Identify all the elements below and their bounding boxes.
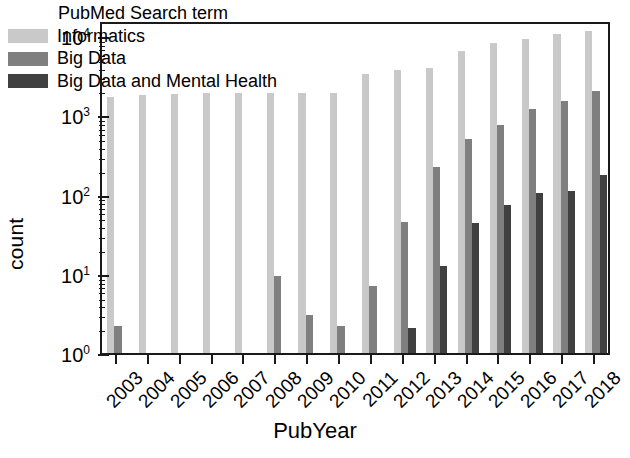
y-tick-minor: [99, 220, 105, 221]
bar: [203, 93, 210, 353]
bar: [585, 31, 592, 353]
bar: [440, 266, 447, 353]
bar: [298, 93, 305, 353]
bar: [408, 328, 415, 353]
bar: [274, 276, 281, 353]
legend-label-big-data: Big Data: [57, 47, 126, 70]
x-tick: [147, 355, 149, 364]
legend-item-1: Big Data: [8, 47, 277, 70]
y-tick-minor: [99, 252, 105, 253]
y-tick-minor: [99, 121, 105, 122]
x-tick: [115, 355, 117, 364]
legend-item-0: Informatics: [8, 25, 277, 48]
x-tick: [179, 355, 181, 364]
bar: [235, 93, 242, 353]
legend: PubMed Search term Informatics Big Data …: [8, 2, 277, 93]
bar: [171, 94, 178, 353]
y-tick-minor: [99, 93, 105, 94]
bar: [139, 95, 146, 353]
bar: [490, 43, 497, 353]
y-tick-minor: [99, 331, 105, 332]
x-tick: [306, 355, 308, 364]
y-tick-minor: [99, 288, 105, 289]
y-tick-minor: [99, 130, 105, 131]
legend-swatch-informatics: [8, 29, 48, 43]
bar: [394, 70, 401, 353]
y-tick-minor: [99, 238, 105, 239]
bar: [267, 93, 274, 353]
bar: [561, 101, 568, 353]
x-tick: [561, 355, 563, 364]
legend-title: PubMed Search term: [58, 2, 277, 25]
bar: [522, 39, 529, 353]
legend-label-big-data-mental-health: Big Data and Mental Health: [57, 70, 277, 93]
y-tick-major: [98, 196, 109, 198]
bar: [306, 315, 313, 353]
bar: [458, 51, 465, 353]
y-tick-label: 101: [61, 264, 90, 288]
x-tick-label: 2018: [580, 367, 625, 412]
bar: [465, 139, 472, 353]
bar: [426, 68, 433, 353]
y-tick-minor: [99, 317, 105, 318]
bar: [330, 93, 337, 353]
bar: [553, 34, 560, 353]
bar: [337, 326, 344, 353]
legend-item-2: Big Data and Mental Health: [8, 70, 277, 93]
bar: [529, 109, 536, 353]
x-tick: [402, 355, 404, 364]
bar: [369, 286, 376, 353]
bar: [600, 175, 607, 353]
y-tick-minor: [99, 159, 105, 160]
bar: [401, 222, 408, 353]
bar: [472, 223, 479, 353]
bar: [504, 205, 511, 353]
bar-chart-figure: count 100101102103104 200320042005200620…: [0, 0, 630, 458]
y-tick-label: 103: [61, 105, 90, 129]
y-tick-minor: [99, 209, 105, 210]
bar: [497, 125, 504, 353]
y-tick-minor: [99, 300, 105, 301]
bar: [568, 191, 575, 353]
legend-swatch-big-data-mental-health: [8, 74, 48, 88]
x-tick: [242, 355, 244, 364]
x-tick: [593, 355, 595, 364]
legend-swatch-big-data: [8, 52, 48, 66]
y-tick-minor: [99, 284, 105, 285]
x-tick: [497, 355, 499, 364]
y-tick-minor: [99, 228, 105, 229]
bar: [433, 167, 440, 353]
legend-label-informatics: Informatics: [57, 25, 145, 48]
y-tick-major: [98, 354, 109, 356]
x-tick: [338, 355, 340, 364]
bar: [362, 74, 369, 353]
y-tick-label: 102: [61, 185, 90, 209]
x-tick: [434, 355, 436, 364]
bar: [592, 91, 599, 353]
y-tick-label: 100: [61, 343, 90, 367]
y-tick-major: [98, 275, 109, 277]
y-tick-minor: [99, 307, 105, 308]
x-tick: [466, 355, 468, 364]
y-tick-minor: [99, 149, 105, 150]
y-tick-minor: [99, 135, 105, 136]
x-tick: [529, 355, 531, 364]
y-tick-major: [98, 116, 109, 118]
bar: [114, 326, 121, 353]
y-tick-minor: [99, 173, 105, 174]
x-tick: [274, 355, 276, 364]
x-tick: [370, 355, 372, 364]
y-tick-minor: [99, 293, 105, 294]
y-tick-minor: [99, 214, 105, 215]
y-tick-minor: [99, 125, 105, 126]
y-tick-minor: [99, 204, 105, 205]
y-tick-minor: [99, 280, 105, 281]
y-tick-minor: [99, 200, 105, 201]
x-tick: [211, 355, 213, 364]
bar: [107, 97, 114, 353]
bar: [536, 193, 543, 353]
y-tick-minor: [99, 141, 105, 142]
x-axis-title: PubYear: [0, 418, 630, 444]
